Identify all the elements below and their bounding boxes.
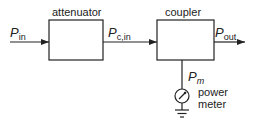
power-meter-icon bbox=[175, 89, 189, 103]
input-power-label: Pin bbox=[10, 26, 26, 42]
coupler-input-power-label: Pc,in bbox=[108, 26, 131, 42]
block-diagram bbox=[0, 0, 254, 136]
attenuator-label: attenuator bbox=[52, 7, 102, 18]
ground-icon bbox=[175, 110, 189, 117]
output-power-label: Pout bbox=[215, 26, 236, 42]
coupler-label: coupler bbox=[165, 7, 201, 18]
power-meter-label-line2: meter bbox=[198, 99, 226, 110]
power-meter-label-line1: power bbox=[198, 87, 228, 98]
coupler-box bbox=[157, 20, 214, 60]
attenuator-box bbox=[49, 20, 103, 60]
monitor-power-label: Pm bbox=[188, 70, 204, 86]
